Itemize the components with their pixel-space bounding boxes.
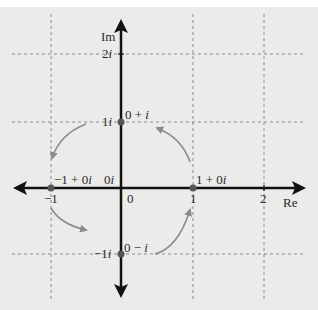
y-axis-label: Im [101,30,115,43]
rotation-arrow-i-to-minus-one [52,124,86,158]
point-i [118,119,125,126]
x-tick-0: 0 [127,192,134,205]
point-label-minus-one: −1 + 0i [54,173,92,186]
origin-label: 0i [104,173,114,186]
x-tick-minus-1: −1 [44,192,58,205]
x-axis-label: Re [283,196,297,209]
point-label-i: 0 + i [125,108,149,121]
complex-plane-figure: Im Re 22ii 1i −1i −1 0 1 2 0 + i 1 + 0i … [0,7,318,310]
x-tick-1: 1 [190,192,197,205]
axes [13,19,306,298]
point-label-minus-i: 0 − i [124,241,148,254]
y-tick-minus-1i: −1i [94,247,111,260]
grid-lines [12,14,306,302]
y-tick-2i: 22ii [102,47,112,60]
rotation-arrow-1-to-i [157,128,190,162]
complex-plane-canvas [0,7,318,310]
rotation-arrow-minus-i-to-one [155,210,190,254]
x-tick-2: 2 [260,192,267,205]
y-tick-1i: 1i [102,115,112,128]
rotation-arrow-minus-one-to-minus-i [51,208,86,230]
point-label-one: 1 + 0i [196,173,226,186]
